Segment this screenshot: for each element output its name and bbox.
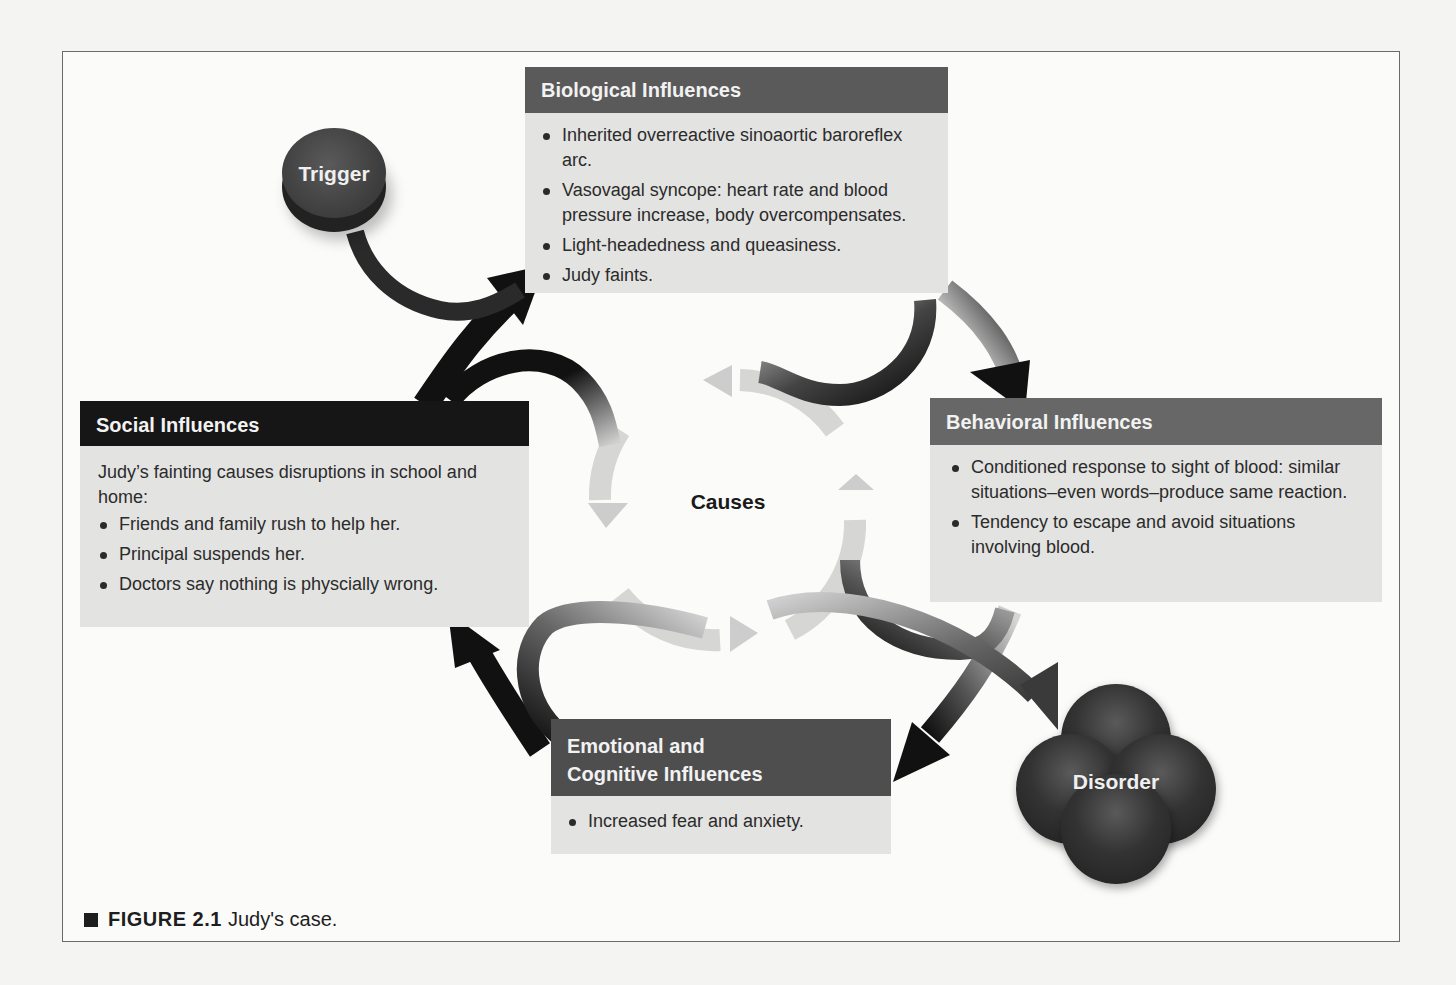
list-item: Increased fear and anxiety. xyxy=(567,809,877,834)
list-item: Vasovagal syncope: heart rate and blood … xyxy=(541,178,934,228)
list-item: Tendency to escape and avoid situations … xyxy=(950,510,1368,560)
list-item: Doctors say nothing is physcially wrong. xyxy=(98,572,511,597)
figure-caption-text: Judy's case. xyxy=(228,908,337,930)
causes-label: Causes xyxy=(660,490,796,514)
list-item: Light-headedness and queasiness. xyxy=(541,233,934,258)
figure-number: FIGURE 2.1 xyxy=(108,908,222,930)
biological-influences-body: Inherited overreactive sinoaortic barore… xyxy=(525,113,948,293)
list-item: Judy faints. xyxy=(541,263,934,288)
trigger-node: Trigger xyxy=(282,128,386,232)
social-influences-intro: Judy’s fainting causes disruptions in sc… xyxy=(98,460,511,510)
social-influences-title: Social Influences xyxy=(80,401,529,446)
caption-square-icon xyxy=(84,913,98,927)
behavioral-influences-box: Behavioral Influences Conditioned respon… xyxy=(930,398,1382,602)
title-line-1: Emotional and xyxy=(567,732,875,760)
emotional-cognitive-influences-body: Increased fear and anxiety. xyxy=(551,796,891,854)
behavioral-influences-body: Conditioned response to sight of blood: … xyxy=(930,445,1382,602)
trigger-label: Trigger xyxy=(282,162,386,186)
emotional-cognitive-influences-title: Emotional and Cognitive Influences xyxy=(551,719,891,796)
biological-influences-title: Biological Influences xyxy=(525,67,948,113)
social-influences-body: Judy’s fainting causes disruptions in sc… xyxy=(80,446,529,627)
figure-caption: FIGURE 2.1Judy's case. xyxy=(84,908,337,931)
list-item: Conditioned response to sight of blood: … xyxy=(950,455,1368,505)
social-influences-box: Social Influences Judy’s fainting causes… xyxy=(80,401,529,627)
emotional-cognitive-influences-box: Emotional and Cognitive Influences Incre… xyxy=(551,719,891,854)
list-item: Inherited overreactive sinoaortic barore… xyxy=(541,123,934,173)
biological-influences-box: Biological Influences Inherited overreac… xyxy=(525,67,948,293)
list-item: Friends and family rush to help her. xyxy=(98,512,511,537)
disorder-node: Disorder xyxy=(1016,684,1216,884)
list-item: Principal suspends her. xyxy=(98,542,511,567)
disorder-label: Disorder xyxy=(1016,770,1216,794)
title-line-2: Cognitive Influences xyxy=(567,760,875,788)
behavioral-influences-title: Behavioral Influences xyxy=(930,398,1382,445)
